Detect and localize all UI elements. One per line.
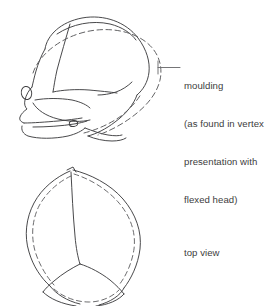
top-view-skull — [26, 167, 140, 306]
moulded-outline-dashed — [33, 30, 161, 135]
moulding-annotation: moulding (as found in vertex presentatio… — [184, 55, 264, 219]
occipital-rim-left — [50, 286, 80, 304]
temporal-bone-outline — [33, 103, 90, 121]
moulded-base-dashed — [84, 94, 141, 133]
moulding-annotation-line-2: (as found in vertex — [184, 118, 264, 131]
top-view-annotation: top view — [184, 222, 220, 272]
moulding-annotation-line-1: moulding — [184, 80, 264, 93]
superior-moulded-dashed-left — [33, 176, 71, 285]
moulding-annotation-line-4: flexed head) — [184, 194, 264, 207]
lateral-view-skull — [20, 17, 161, 141]
superior-outline-right — [73, 170, 140, 288]
skull-base-lower-outline — [88, 136, 126, 141]
zygomatic-arch — [35, 99, 90, 109]
frontal-bone-outline — [32, 49, 45, 87]
top-view-annotation-line-1: top view — [184, 247, 220, 260]
lambdoid-suture-right — [80, 264, 124, 294]
squamous-suture — [53, 90, 117, 93]
superior-moulded-dashed-base — [54, 289, 119, 302]
superior-moulded-dashed-right — [74, 174, 134, 285]
mandible-outline — [22, 126, 85, 138]
coronal-suture — [53, 24, 70, 92]
sagittal-suture-superior — [71, 172, 80, 264]
moulding-annotation-line-3: presentation with — [184, 156, 264, 169]
